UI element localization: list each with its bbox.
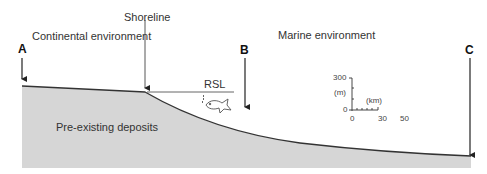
rsl-label: RSL [204, 79, 225, 90]
marine-environment-label: Marine environment [278, 30, 375, 41]
pre-existing-deposits-label: Pre-existing deposits [56, 122, 158, 133]
scale-x-tick-30: 30 [378, 115, 387, 123]
shoreline-label: Shoreline [124, 12, 170, 23]
scale-y-unit: (m) [334, 89, 346, 97]
scale-y-max: 300 [333, 74, 346, 82]
scale-x-tick-50: 50 [400, 115, 409, 123]
scale-bar [349, 78, 378, 111]
marker-b: B [240, 44, 249, 56]
continental-environment-label: Continental environment [32, 31, 151, 42]
scale-y-min: 0 [343, 106, 347, 114]
scale-x-tick-0: 0 [350, 115, 354, 123]
marker-a: A [18, 43, 27, 55]
scale-x-unit: (km) [366, 97, 382, 105]
marker-c: C [465, 44, 474, 56]
fish-icon [202, 95, 231, 113]
stratigraphy-diagram [0, 0, 487, 174]
